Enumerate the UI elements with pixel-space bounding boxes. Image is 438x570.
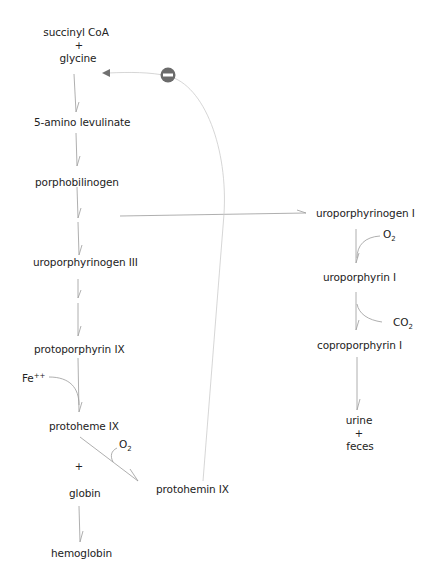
feedback-arrowhead-icon bbox=[102, 69, 110, 77]
co2-output-curve bbox=[357, 304, 382, 322]
arrow-ala-to-pbg bbox=[76, 133, 77, 166]
o2-input-curve bbox=[111, 448, 117, 462]
label-uroporphyrin-i: uroporphyrin I bbox=[323, 271, 396, 284]
label-protoporphyrin-ix: protoporphyrin IX bbox=[34, 343, 124, 356]
label-feces: feces bbox=[346, 440, 373, 453]
label-hemoglobin: hemoglobin bbox=[51, 547, 112, 560]
label-co2: CO2 bbox=[393, 316, 413, 329]
label-o2-left: O2 bbox=[119, 438, 132, 451]
label-plus: + bbox=[75, 39, 83, 52]
label-glycine: glycine bbox=[60, 52, 97, 65]
label-fe-plus-plus: Fe++ bbox=[22, 372, 45, 385]
label-porphobilinogen: porphobilinogen bbox=[35, 176, 119, 189]
arrow-pbg-to-uro1gen bbox=[120, 213, 306, 216]
o2-side-curve bbox=[357, 236, 380, 258]
arrow-glycine-to-ala bbox=[74, 74, 76, 112]
label-o2-side: O2 bbox=[383, 228, 396, 241]
label-plus-urine: + bbox=[355, 427, 363, 440]
label-5-amino-levulinate: 5-amino levulinate bbox=[34, 116, 130, 129]
inhibition-minus-icon bbox=[161, 68, 176, 83]
fe-input-curve bbox=[49, 377, 79, 405]
label-globin: globin bbox=[69, 487, 101, 500]
label-succinyl-coa: succinyl CoA bbox=[43, 26, 108, 39]
label-plus-globin: + bbox=[75, 460, 83, 473]
label-coproporphyrin-i: coproporphyrin I bbox=[317, 339, 402, 352]
arrow-globin-to-hemoglobin bbox=[79, 506, 80, 542]
label-protohemin-ix: protohemin IX bbox=[156, 483, 229, 496]
feedback-inhibition-line bbox=[108, 72, 224, 481]
arrow-pbg-to-uro3 bbox=[77, 187, 78, 218]
label-urine: urine bbox=[346, 414, 373, 427]
label-uroporphyrinogen-i: uroporphyrinogen I bbox=[316, 207, 415, 220]
label-uroporphyrinogen-iii: uroporphyrinogen III bbox=[33, 256, 138, 269]
label-protoheme-ix: protoheme IX bbox=[49, 420, 119, 433]
